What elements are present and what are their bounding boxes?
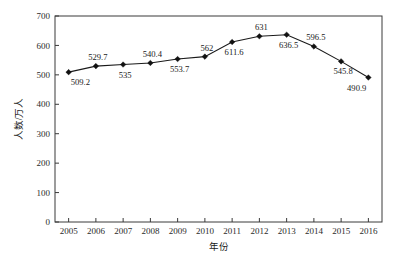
data-point-marker-2010 [202, 54, 208, 60]
data-point-marker-2009 [175, 56, 181, 62]
chart-canvas: 0100200300400500600700200520062007200820… [0, 0, 408, 271]
data-point-marker-2014 [311, 44, 317, 50]
y-tick-label-500: 500 [37, 70, 51, 80]
data-point-marker-2015 [338, 59, 344, 65]
data-point-label-2007: 535 [119, 70, 132, 80]
data-point-label-2009: 553.7 [170, 64, 190, 74]
data-point-marker-2011 [229, 39, 235, 45]
x-tick-label-2013: 2013 [278, 226, 297, 236]
data-point-marker-2006 [93, 63, 99, 69]
line-chart: 0100200300400500600700200520062007200820… [0, 0, 408, 271]
y-tick-label-300: 300 [37, 129, 51, 139]
data-point-label-2016: 490.9 [347, 83, 366, 93]
data-point-label-2006: 529.7 [88, 52, 108, 62]
data-point-label-2015: 545.8 [333, 66, 352, 76]
y-tick-label-400: 400 [37, 99, 51, 109]
data-point-label-2008: 540.4 [143, 49, 163, 59]
y-tick-label-600: 600 [37, 41, 51, 51]
x-tick-label-2005: 2005 [60, 226, 79, 236]
x-tick-label-2014: 2014 [305, 226, 324, 236]
y-axis-title: 人数/万人 [13, 98, 24, 141]
data-point-marker-2013 [284, 32, 290, 38]
x-tick-label-2015: 2015 [332, 226, 351, 236]
x-tick-label-2008: 2008 [141, 226, 160, 236]
data-point-label-2014: 596.5 [306, 32, 325, 42]
y-axis-title-group: 人数/万人 [13, 98, 24, 141]
y-tick-label-100: 100 [37, 188, 51, 198]
data-point-label-2010: 562 [200, 43, 213, 53]
data-point-label-2013: 636.5 [279, 40, 298, 50]
data-point-marker-2007 [120, 62, 126, 68]
data-point-marker-2016 [366, 75, 372, 81]
plot-frame [55, 16, 382, 222]
data-point-marker-2005 [66, 69, 72, 75]
x-tick-label-2016: 2016 [359, 226, 378, 236]
x-tick-label-2007: 2007 [114, 226, 133, 236]
x-tick-label-2012: 2012 [250, 226, 268, 236]
x-tick-label-2006: 2006 [87, 226, 106, 236]
x-tick-label-2010: 2010 [196, 226, 215, 236]
data-point-marker-2008 [148, 60, 154, 66]
data-point-label-2005: 509.2 [71, 77, 90, 87]
x-tick-label-2011: 2011 [223, 226, 241, 236]
y-tick-label-200: 200 [37, 158, 51, 168]
data-point-marker-2012 [257, 34, 263, 40]
data-point-label-2011: 611.6 [225, 47, 245, 57]
y-tick-label-0: 0 [46, 217, 51, 227]
x-axis-title: 年份 [209, 241, 229, 252]
data-point-label-2012: 631 [255, 22, 268, 32]
x-tick-label-2009: 2009 [169, 226, 188, 236]
y-tick-label-700: 700 [37, 11, 51, 21]
